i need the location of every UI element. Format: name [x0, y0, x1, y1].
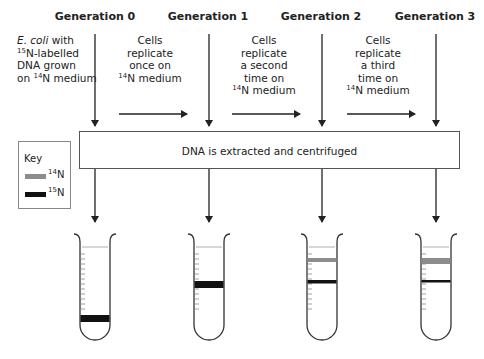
- test-tube-gen-3: [415, 234, 457, 340]
- test-tube-gen-2: [301, 234, 343, 340]
- process-box-label: DNA is extracted and centrifuged: [80, 145, 459, 157]
- legend-label-15n: 15N: [48, 187, 64, 198]
- diagram-graphics: [0, 0, 484, 359]
- legend-key: Key 14N 15N: [18, 141, 71, 209]
- down-arrows-top: [95, 34, 436, 126]
- legend-title: Key: [24, 153, 42, 164]
- test-tube-gen-1: [188, 234, 230, 340]
- legend-swatch-14n: [25, 174, 46, 179]
- band-14n: [308, 258, 337, 262]
- band-hybrid: [195, 281, 224, 288]
- legend-swatch-15n: [25, 192, 46, 197]
- down-arrows-bottom: [95, 167, 436, 222]
- band-14n: [422, 258, 451, 264]
- band-15n: [81, 315, 110, 322]
- band-hybrid: [308, 280, 337, 284]
- band-hybrid: [422, 280, 451, 283]
- process-box: DNA is extracted and centrifuged: [79, 131, 460, 169]
- legend-label-14n: 14N: [48, 169, 64, 180]
- test-tube-gen-0: [74, 234, 116, 340]
